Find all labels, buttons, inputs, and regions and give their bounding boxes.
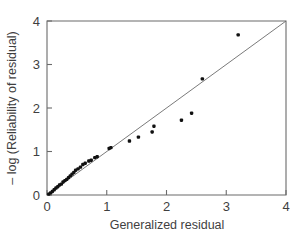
svg-text:4: 4 [33, 14, 40, 29]
x-axis-label: Generalized residual [110, 218, 225, 232]
svg-text:0: 0 [43, 199, 50, 214]
svg-text:1: 1 [103, 199, 110, 214]
svg-text:1: 1 [33, 144, 40, 159]
scatter-plot: 0123401234 Generalized residual – log (R… [0, 0, 304, 239]
svg-text:2: 2 [163, 199, 170, 214]
svg-text:0: 0 [33, 188, 40, 203]
svg-text:2: 2 [33, 101, 40, 116]
svg-text:3: 3 [33, 57, 40, 72]
y-axis-label: – log (Reliability of residual) [5, 31, 19, 185]
svg-text:3: 3 [223, 199, 230, 214]
chart-figure: 0123401234 Generalized residual – log (R… [0, 0, 304, 239]
svg-text:4: 4 [282, 199, 289, 214]
